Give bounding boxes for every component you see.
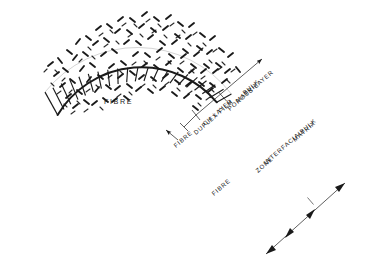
fibre-interfacial-zone-diagram: FIBRE BULK MATRIX POROUS LAYER CH LAYER … <box>0 0 366 265</box>
background <box>0 0 366 265</box>
label-fibre-core: FIBRE <box>104 97 133 106</box>
figure-canvas: FIBRE BULK MATRIX POROUS LAYER CH LAYER … <box>0 0 366 265</box>
